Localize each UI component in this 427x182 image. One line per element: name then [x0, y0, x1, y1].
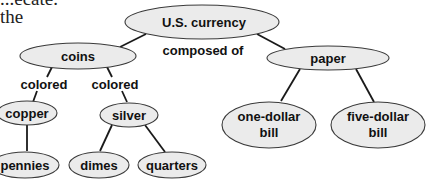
- link-label-colored-left: colored: [21, 77, 68, 92]
- node-quarters: quarters: [138, 152, 206, 178]
- svg-text:copper: copper: [5, 106, 48, 121]
- edge-colored-copper: [33, 91, 37, 102]
- svg-text:U.S. currency: U.S. currency: [162, 15, 247, 30]
- svg-text:bill: bill: [369, 125, 388, 140]
- edge-coins-colored-left: [47, 67, 52, 77]
- edge-silver-quarters: [145, 125, 165, 152]
- node-dimes: dimes: [69, 152, 129, 178]
- node-pennies: pennies: [0, 152, 59, 178]
- edge-silver-dimes: [100, 125, 112, 151]
- svg-text:quarters: quarters: [146, 158, 198, 173]
- svg-text:one-dollar: one-dollar: [238, 109, 301, 124]
- edge-coins-colored-right: [107, 67, 112, 77]
- svg-text:five-dollar: five-dollar: [347, 109, 409, 124]
- node-coins: coins: [20, 43, 136, 69]
- svg-text:coins: coins: [61, 49, 95, 64]
- edge-currency-coins: [120, 34, 146, 47]
- edge-paper-fivedollar: [356, 69, 374, 102]
- edge-currency-paper: [257, 34, 285, 49]
- node-paper: paper: [267, 46, 389, 70]
- svg-text:dimes: dimes: [80, 158, 118, 173]
- node-five-dollar-bill: five-dollar bill: [331, 102, 425, 148]
- concept-map: U.S. currency composed of coins colored …: [0, 0, 427, 182]
- svg-text:silver: silver: [112, 108, 146, 123]
- node-silver: silver: [100, 103, 158, 127]
- edge-colored-silver: [122, 91, 127, 102]
- svg-text:paper: paper: [310, 51, 345, 66]
- node-us-currency: U.S. currency: [125, 5, 279, 39]
- svg-text:pennies: pennies: [0, 158, 49, 173]
- link-label-colored-right: colored: [92, 77, 139, 92]
- link-label-composed-of: composed of: [163, 43, 245, 58]
- svg-text:bill: bill: [260, 125, 279, 140]
- edge-paper-onedollar: [281, 69, 300, 101]
- node-copper: copper: [0, 101, 57, 125]
- node-one-dollar-bill: one-dollar bill: [222, 102, 316, 148]
